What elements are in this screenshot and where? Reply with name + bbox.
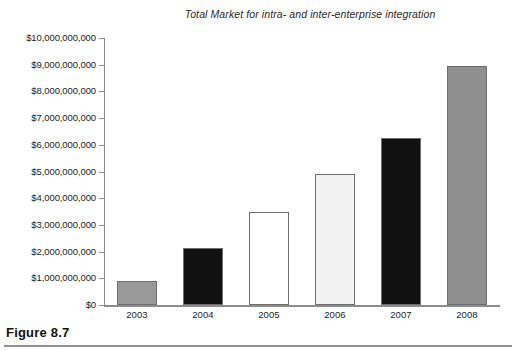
bar-2006 xyxy=(315,174,355,305)
x-axis-label-2003: 2003 xyxy=(107,309,167,320)
x-axis-label-2005: 2005 xyxy=(239,309,299,320)
bar-series xyxy=(0,0,516,316)
bar-2007 xyxy=(381,138,421,305)
x-axis-label-2004: 2004 xyxy=(173,309,233,320)
figure-container: Total Market for intra- and inter-enterp… xyxy=(0,0,516,350)
bar-2005 xyxy=(249,212,289,305)
plot-area: $0$1,000,000,000$2,000,000,000$3,000,000… xyxy=(0,0,516,316)
figure-caption-label: Figure 8.7 xyxy=(6,325,69,340)
bar-2008 xyxy=(447,66,487,305)
x-axis-label-2008: 2008 xyxy=(437,309,497,320)
figure-caption: Figure 8.7 xyxy=(0,325,516,350)
bar-2003 xyxy=(117,281,157,305)
caption-divider xyxy=(4,345,512,347)
x-axis-label-2006: 2006 xyxy=(305,309,365,320)
bar-2004 xyxy=(183,248,223,305)
x-axis-label-2007: 2007 xyxy=(371,309,431,320)
